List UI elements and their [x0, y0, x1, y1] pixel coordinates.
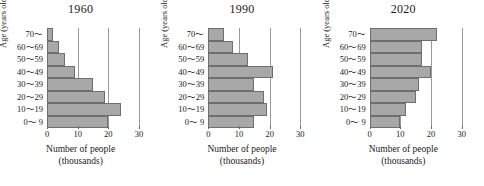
- bar-row: [208, 116, 300, 129]
- bar: [370, 91, 416, 104]
- bar: [370, 78, 419, 91]
- y-axis-tick-label: 30〜39: [0, 78, 46, 91]
- x-axis-tick-label: 10: [235, 129, 244, 139]
- y-axis-tick-label: 50〜59: [323, 53, 369, 66]
- bar-row: [208, 41, 300, 54]
- y-axis-tick-label: 20〜29: [323, 91, 369, 104]
- y-axis-tick-label: 40〜49: [323, 66, 369, 79]
- bar: [47, 66, 75, 79]
- bar-row: [47, 103, 139, 116]
- bar: [208, 66, 272, 79]
- x-axis-title-units: (thousands): [161, 155, 322, 167]
- bar: [208, 116, 254, 129]
- chart-panel-2020: 2020Age (years old)70〜60〜6950〜5940〜4930〜…: [323, 0, 484, 186]
- y-axis-tick-label: 60〜69: [161, 41, 207, 54]
- bar-row: [208, 78, 300, 91]
- x-axis-title-main: Number of people: [46, 144, 115, 154]
- x-axis-tick-label: 30: [296, 129, 305, 139]
- x-axis-tick-label: 10: [73, 129, 82, 139]
- bar: [370, 28, 437, 41]
- y-axis-tick-label: 0〜 9: [161, 116, 207, 129]
- x-axis-title-units: (thousands): [323, 155, 484, 167]
- y-axis-tick-label: 40〜49: [161, 66, 207, 79]
- x-axis-ticks: 0102030: [47, 129, 139, 141]
- bar-row: [370, 103, 462, 116]
- bar-row: [370, 41, 462, 54]
- y-axis-tick-label: 20〜29: [0, 91, 46, 104]
- bar-series: [370, 28, 462, 128]
- bar-row: [47, 78, 139, 91]
- bar-row: [47, 41, 139, 54]
- x-axis-tick-label: 30: [457, 129, 466, 139]
- bar: [370, 103, 407, 116]
- x-axis-title-main: Number of people: [207, 144, 276, 154]
- bar: [208, 28, 223, 41]
- bar-row: [208, 91, 300, 104]
- bar-row: [208, 66, 300, 79]
- bar-row: [208, 53, 300, 66]
- y-axis-tick-label: 40〜49: [0, 66, 46, 79]
- bar-row: [370, 116, 462, 129]
- x-axis-ticks: 0102030: [370, 129, 462, 141]
- chart-title: 2020: [323, 2, 484, 17]
- y-axis-tick-label: 10〜19: [323, 103, 369, 116]
- bar-row: [370, 53, 462, 66]
- y-axis-tick-label: 30〜39: [161, 78, 207, 91]
- bar: [208, 78, 254, 91]
- gridline-30: [300, 28, 301, 128]
- x-axis-tick-label: 30: [135, 129, 144, 139]
- chart-panel-1990: 1990Age (years old)70〜60〜6950〜5940〜4930〜…: [161, 0, 322, 186]
- bar: [47, 53, 65, 66]
- x-axis-tick-label: 20: [265, 129, 274, 139]
- bar-row: [47, 116, 139, 129]
- y-axis-tick-label: 60〜69: [0, 41, 46, 54]
- y-axis-labels: 70〜60〜6950〜5940〜4930〜3920〜2910〜190〜 9: [0, 28, 46, 128]
- x-axis-title: Number of people(thousands): [0, 143, 161, 167]
- y-axis-labels: 70〜60〜6950〜5940〜4930〜3920〜2910〜190〜 9: [323, 28, 369, 128]
- x-axis-title: Number of people(thousands): [323, 143, 484, 167]
- y-axis-tick-label: 30〜39: [323, 78, 369, 91]
- bar: [208, 91, 263, 104]
- x-axis-title-main: Number of people: [369, 144, 438, 154]
- bar: [208, 41, 233, 54]
- bar-row: [47, 28, 139, 41]
- y-axis-tick-label: 50〜59: [161, 53, 207, 66]
- chart-title: 1960: [0, 2, 161, 17]
- bar: [47, 28, 53, 41]
- bar-row: [370, 91, 462, 104]
- bar: [370, 116, 401, 129]
- y-axis-labels: 70〜60〜6950〜5940〜4930〜3920〜2910〜190〜 9: [161, 28, 207, 128]
- y-axis-tick-label: 10〜19: [161, 103, 207, 116]
- bar: [208, 53, 248, 66]
- bar: [370, 41, 422, 54]
- x-axis-tick-label: 0: [368, 129, 372, 139]
- gridline-30: [462, 28, 463, 128]
- y-axis-tick-label: 60〜69: [323, 41, 369, 54]
- bar-row: [208, 103, 300, 116]
- bar: [370, 53, 422, 66]
- x-axis-tick-label: 20: [427, 129, 436, 139]
- population-pyramid-chart-group: 1960Age (years old)70〜60〜6950〜5940〜4930〜…: [0, 0, 484, 186]
- gridline-30: [139, 28, 140, 128]
- x-axis-tick-label: 0: [45, 129, 49, 139]
- x-axis-title-units: (thousands): [0, 155, 161, 167]
- y-axis-tick-label: 70〜: [323, 28, 369, 41]
- y-axis-tick-label: 10〜19: [0, 103, 46, 116]
- bar: [47, 91, 105, 104]
- plot-area: [208, 28, 300, 128]
- bar-row: [370, 66, 462, 79]
- x-axis-title: Number of people(thousands): [161, 143, 322, 167]
- y-axis-tick-label: 70〜: [161, 28, 207, 41]
- bar-series: [47, 28, 139, 128]
- bar: [370, 66, 431, 79]
- bar: [47, 103, 121, 116]
- plot-area: [47, 28, 139, 128]
- x-axis-ticks: 0102030: [208, 129, 300, 141]
- bar: [47, 41, 59, 54]
- plot-area: [370, 28, 462, 128]
- bar: [47, 78, 93, 91]
- y-axis-tick-label: 0〜 9: [0, 116, 46, 129]
- chart-panel-1960: 1960Age (years old)70〜60〜6950〜5940〜4930〜…: [0, 0, 161, 186]
- bar-row: [47, 91, 139, 104]
- bar-row: [47, 66, 139, 79]
